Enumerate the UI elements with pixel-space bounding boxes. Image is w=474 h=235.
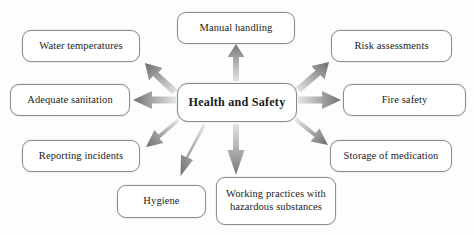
arrow-to-risk-assessments (295, 62, 329, 92)
node-hygiene[interactable]: Hygiene (117, 185, 206, 218)
node-label-manual-handling: Manual handling (195, 22, 278, 35)
node-manual-handling[interactable]: Manual handling (177, 12, 295, 44)
node-water-temperatures[interactable]: Water temperatures (22, 30, 140, 62)
node-label-fire-safety: Fire safety (377, 94, 433, 107)
node-label-hygiene: Hygiene (138, 195, 184, 208)
arrow-to-adequate-sanitation (133, 91, 176, 109)
center-node-label: Health and Safety (184, 95, 291, 110)
node-label-storage-of-medication: Storage of medication (339, 150, 444, 163)
arrow-to-water-temperatures (145, 63, 178, 94)
node-fire-safety[interactable]: Fire safety (343, 84, 466, 116)
node-reporting-incidents[interactable]: Reporting incidents (22, 140, 140, 172)
arrow-to-fire-safety (298, 91, 341, 109)
node-label-working-practices-hazardous-substances: Working practices with hazardous substan… (221, 188, 331, 214)
arrow-to-manual-handling (228, 44, 245, 81)
arrow-to-working-practices (228, 124, 245, 175)
center-node-health-and-safety[interactable]: Health and Safety (177, 83, 297, 122)
health-and-safety-diagram: Health and Safety Manual handling Risk a… (0, 0, 474, 235)
node-label-reporting-incidents: Reporting incidents (34, 150, 128, 163)
node-label-water-temperatures: Water temperatures (34, 40, 127, 53)
node-risk-assessments[interactable]: Risk assessments (331, 30, 452, 62)
node-working-practices-hazardous-substances[interactable]: Working practices with hazardous substan… (216, 177, 336, 225)
node-label-adequate-sanitation: Adequate sanitation (22, 94, 118, 107)
arrow-to-reporting-incidents (146, 118, 179, 147)
arrow-to-hygiene (181, 124, 207, 176)
arrow-to-storage-of-medication (295, 117, 328, 145)
node-adequate-sanitation[interactable]: Adequate sanitation (10, 84, 130, 116)
node-label-risk-assessments: Risk assessments (349, 40, 433, 53)
node-storage-of-medication[interactable]: Storage of medication (330, 140, 452, 172)
